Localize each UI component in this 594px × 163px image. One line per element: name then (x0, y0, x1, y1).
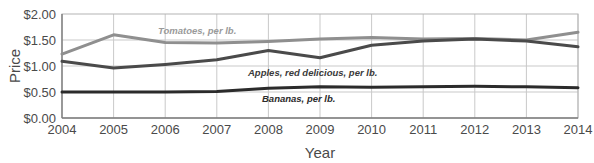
y-tick-label: $1.50 (23, 33, 56, 48)
x-tick-label: 2006 (151, 122, 180, 137)
x-tick-label: 2009 (306, 122, 335, 137)
y-tick-label: $0.50 (23, 85, 56, 100)
series-label-bananas: Bananas, per lb. (262, 93, 335, 104)
x-tick-label: 2004 (48, 122, 77, 137)
y-tick-label: $2.00 (23, 7, 56, 22)
x-tick-label: 2007 (202, 122, 231, 137)
x-tick-label: 2008 (254, 122, 283, 137)
x-tick-label: 2010 (357, 122, 386, 137)
x-tick-labels: 2004200520062007200820092010201120122013… (48, 122, 593, 137)
series-label-tomatoes: Tomatoes, per lb. (158, 25, 236, 36)
chart-canvas: $2.00$1.50$1.00$0.50$0.00 20042005200620… (0, 0, 594, 163)
y-axis-title: Price (6, 49, 23, 83)
x-axis-title: Year (305, 144, 335, 161)
y-tick-label: $1.00 (23, 59, 56, 74)
x-tick-label: 2005 (99, 122, 128, 137)
price-line-chart: $2.00$1.50$1.00$0.50$0.00 20042005200620… (0, 0, 594, 163)
x-tick-label: 2012 (460, 122, 489, 137)
x-tick-label: 2011 (409, 122, 437, 137)
y-tick-labels: $2.00$1.50$1.00$0.50$0.00 (23, 7, 56, 126)
x-tick-label: 2014 (564, 122, 593, 137)
series-label-apples: Apples, red delicious, per lb. (247, 67, 377, 78)
x-tick-label: 2013 (512, 122, 541, 137)
